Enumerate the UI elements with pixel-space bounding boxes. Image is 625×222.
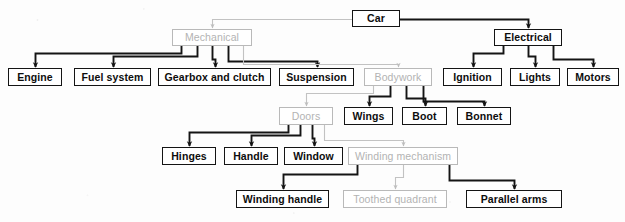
node-mechanical[interactable]: Mechanical [172,29,252,46]
node-window[interactable]: Window [284,147,343,165]
node-winding-mechanism[interactable]: Winding mechanism [348,147,458,165]
edge-bodywork-to-doors [307,86,374,106]
edge-electrical-to-ignition [474,46,504,67]
node-label-ignition: Ignition [451,71,494,82]
edge-winding-mechanism-to-toothed-quadrant [396,165,404,189]
node-label-winding-mechanism: Winding mechanism [353,150,453,161]
edge-electrical-to-motors [554,46,594,67]
node-label-suspension: Suspension [284,71,349,82]
edge-electrical-to-lights [529,46,536,67]
node-parallel-arms[interactable]: Parallel arms [466,190,562,208]
node-winding-handle[interactable]: Winding handle [236,190,329,208]
node-doors[interactable]: Doors [279,107,333,125]
edge-car-to-mechanical [213,20,353,29]
edge-doors-to-winding-mechanism [325,125,404,146]
node-boot[interactable]: Boot [402,107,447,125]
node-engine[interactable]: Engine [8,68,62,86]
node-hinges[interactable]: Hinges [162,147,216,165]
node-electrical[interactable]: Electrical [494,29,562,46]
edge-doors-to-handle [252,125,301,146]
node-label-boot: Boot [410,110,438,121]
edge-mechanical-to-fuel-system [114,46,198,67]
node-toothed-quadrant[interactable]: Toothed quadrant [343,190,447,208]
edge-winding-mechanism-to-parallel-arms [450,165,515,189]
node-label-car: Car [365,13,387,24]
edge-car-to-electrical [400,20,529,29]
node-label-gearbox-clutch: Gearbox and clutch [163,71,267,82]
node-label-lights: Lights [517,71,553,82]
node-fuel-system[interactable]: Fuel system [74,68,151,86]
node-suspension[interactable]: Suspension [279,68,354,86]
edge-bodywork-to-wings [370,86,391,106]
node-label-bodywork: Bodywork [373,71,424,82]
node-handle[interactable]: Handle [224,147,278,165]
node-bodywork[interactable]: Bodywork [364,68,432,86]
node-label-mechanical: Mechanical [183,32,241,43]
node-wings[interactable]: Wings [344,107,393,125]
node-label-bonnet: Bonnet [464,110,505,121]
node-car[interactable]: Car [352,10,400,27]
node-label-window: Window [291,150,336,161]
node-label-engine: Engine [15,71,55,82]
hierarchy-diagram: CarMechanicalElectricalEngineFuel system… [0,0,625,222]
node-label-electrical: Electrical [502,32,554,43]
node-label-doors: Doors [290,110,323,121]
node-label-fuel-system: Fuel system [80,71,146,82]
edge-mechanical-to-gearbox-clutch [213,46,216,67]
node-label-toothed-quadrant: Toothed quadrant [351,193,438,204]
node-label-parallel-arms: Parallel arms [479,193,550,204]
edge-doors-to-window [313,125,315,146]
node-label-wings: Wings [351,110,387,121]
node-label-motors: Motors [573,71,613,82]
edge-mechanical-to-bodywork [244,46,399,67]
edge-winding-mechanism-to-winding-handle [284,165,358,189]
node-label-winding-handle: Winding handle [241,193,324,204]
node-gearbox-clutch[interactable]: Gearbox and clutch [158,68,271,86]
edge-mechanical-to-suspension [229,46,318,67]
node-motors[interactable]: Motors [567,68,619,86]
edge-bodywork-to-bonnet [424,86,485,106]
node-label-hinges: Hinges [169,150,209,161]
node-bonnet[interactable]: Bonnet [457,107,511,125]
node-lights[interactable]: Lights [510,68,560,86]
node-label-handle: Handle [231,150,271,161]
node-ignition[interactable]: Ignition [443,68,502,86]
